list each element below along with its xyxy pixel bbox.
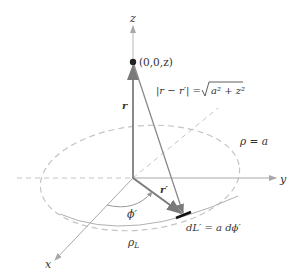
neg-x-dashed	[133, 108, 218, 178]
field-point	[130, 59, 136, 65]
dl-label: dL′ = a dϕ′	[186, 222, 241, 233]
distance-formula-lhs: |r − r′| =	[156, 85, 201, 97]
rho-l-label: ρL	[127, 236, 139, 250]
z-axis-label: z	[129, 12, 136, 25]
phi-prime-arc	[107, 192, 152, 207]
distance-formula-rhs: a² + z²	[211, 85, 245, 96]
diagram-svg: z y x (0,0,z) r r′ |r − r′| = a² + z² ρ …	[0, 0, 301, 280]
rho-eq-a-label: ρ = a	[239, 135, 268, 147]
r-prime-label: r′	[160, 184, 168, 195]
ring-charge-diagram: z y x (0,0,z) r r′ |r − r′| = a² + z² ρ …	[0, 0, 301, 280]
y-axis-label: y	[279, 173, 287, 186]
point-label: (0,0,z)	[139, 56, 173, 68]
phi-prime-label: ϕ′	[127, 208, 137, 221]
x-axis-label: x	[45, 258, 52, 271]
r-label: r	[122, 100, 128, 111]
